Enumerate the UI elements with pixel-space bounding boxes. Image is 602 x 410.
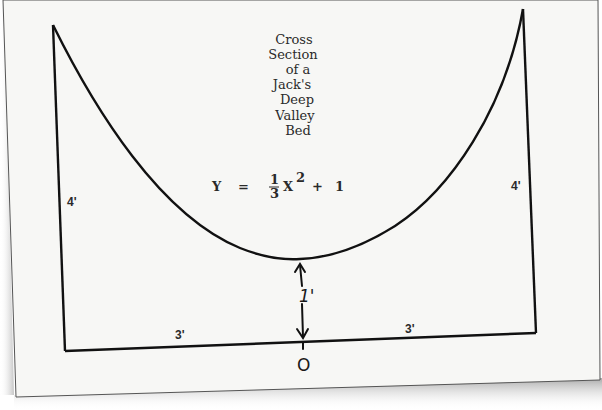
min-height-label: 1'	[299, 286, 315, 306]
equation-constant: 1	[335, 179, 344, 194]
title-line-5: Deep	[280, 92, 314, 107]
cross-section-diagram: Cross Section of a Jack's Deep Valley Be…	[0, 0, 602, 410]
origin-label: O	[297, 355, 310, 375]
right-half-width-label: 3'	[405, 322, 415, 336]
arrow-shaft-lower	[302, 304, 303, 337]
right-wall-height-label: 4'	[511, 179, 521, 193]
equation-exponent: 2	[296, 170, 305, 185]
title-line-3: of a	[286, 62, 311, 77]
diagram-title: Cross Section of a Jack's Deep Valley Be…	[268, 32, 318, 138]
title-line-4: Jack's	[271, 77, 311, 92]
title-line-7: Bed	[285, 123, 311, 138]
fraction-numerator: 1	[270, 172, 279, 187]
equation-equals: =	[238, 179, 249, 194]
equation-y: Y	[211, 179, 222, 194]
title-line-1: Cross	[275, 32, 312, 47]
left-wall-height-label: 4'	[67, 195, 77, 209]
title-line-6: Valley	[274, 108, 315, 123]
equation-plus: +	[312, 179, 323, 194]
title-line-2: Section	[268, 47, 318, 62]
left-half-width-label: 3'	[175, 328, 185, 342]
equation-x: X	[283, 179, 294, 194]
diagram-page: Cross Section of a Jack's Deep Valley Be…	[0, 0, 602, 410]
fraction-denominator: 3	[270, 186, 279, 201]
